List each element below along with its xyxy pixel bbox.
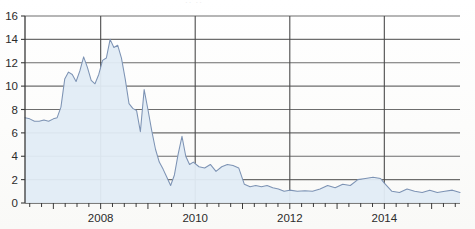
x-tick-label: 2008 — [88, 212, 114, 224]
chart-container: ·· ·· 1614121086420 2008201020122014 — [0, 0, 475, 229]
x-tick-label: 2012 — [277, 212, 303, 224]
y-axis-tick-labels: 1614121086420 — [5, 10, 18, 209]
x-axis-tick-labels: 2008201020122014 — [88, 212, 398, 224]
x-axis-minor-ticks — [30, 203, 456, 209]
y-tick-label: 4 — [12, 150, 19, 162]
y-tick-label: 16 — [5, 10, 18, 22]
x-tick-label: 2010 — [182, 212, 208, 224]
x-tick-label: 2014 — [372, 212, 398, 224]
y-tick-label: 0 — [12, 197, 18, 209]
y-tick-label: 12 — [5, 57, 18, 69]
y-tick-label: 10 — [5, 80, 18, 92]
y-tick-label: 14 — [5, 33, 18, 45]
y-tick-label: 8 — [12, 104, 18, 116]
area-chart: 1614121086420 2008201020122014 — [0, 0, 475, 229]
y-tick-label: 6 — [12, 127, 18, 139]
y-tick-label: 2 — [12, 174, 18, 186]
